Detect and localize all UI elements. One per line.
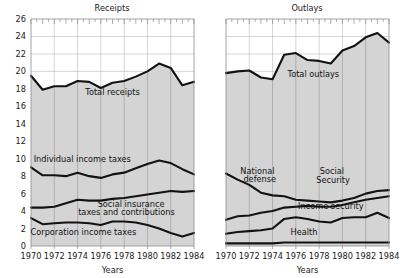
panel-title-receipts: Receipts xyxy=(95,3,130,13)
x-tick-label: 1970 xyxy=(216,251,237,261)
series-line-health xyxy=(226,243,389,244)
y-tick-label: 6 xyxy=(21,189,26,199)
annotation-social-insurance-line2: taxes and contributions xyxy=(78,207,175,217)
annotation-social-security-line2: Security xyxy=(316,175,350,185)
y-tick-label: 14 xyxy=(16,119,26,129)
x-tick-label: 1980 xyxy=(332,251,353,261)
y-tick-label: 24 xyxy=(16,31,26,41)
panel-title-outlays: Outlays xyxy=(291,3,322,13)
annotation-health: Health xyxy=(291,227,318,237)
dual-area-chart: Receipts02468101214161820222426197019721… xyxy=(0,0,411,278)
y-tick-label: 2 xyxy=(21,224,26,234)
y-tick-label: 16 xyxy=(16,101,26,111)
annotation-individual-income-taxes: Individual income taxes xyxy=(34,154,131,164)
y-tick-label: 10 xyxy=(16,154,26,164)
x-tick-label: 1984 xyxy=(184,251,205,261)
y-tick-label: 4 xyxy=(21,206,26,216)
annotation-income-security: Income security xyxy=(298,201,364,211)
x-tick-label: 1976 xyxy=(90,251,111,261)
y-tick-label: 26 xyxy=(16,14,26,24)
x-tick-label: 1970 xyxy=(21,251,42,261)
x-tick-label: 1980 xyxy=(137,251,158,261)
x-tick-label: 1976 xyxy=(285,251,306,261)
y-tick-label: 0 xyxy=(21,241,26,251)
x-tick-label: 1974 xyxy=(67,251,88,261)
annotation-corporation-income-taxes: Corporation income taxes xyxy=(31,227,137,237)
y-tick-label: 20 xyxy=(16,66,26,76)
x-tick-label: 1972 xyxy=(44,251,65,261)
x-tick-label: 1972 xyxy=(239,251,260,261)
y-tick-label: 22 xyxy=(16,49,26,59)
x-axis-title: Years xyxy=(101,265,124,275)
panel-outlays: Outlays19701972197419761978198019821984Y… xyxy=(216,3,400,275)
x-tick-label: 1984 xyxy=(379,251,400,261)
annotation-national-defense-line2: defense xyxy=(243,174,276,184)
annotation-total-receipts: Total receipts xyxy=(84,87,139,97)
x-tick-label: 1978 xyxy=(309,251,330,261)
annotation-total-outlays: Total outlays xyxy=(287,69,340,79)
x-tick-label: 1978 xyxy=(114,251,135,261)
area-fill-total-outlays xyxy=(226,33,389,246)
y-tick-label: 12 xyxy=(16,136,26,146)
x-tick-label: 1974 xyxy=(262,251,283,261)
x-axis-title: Years xyxy=(296,265,319,275)
y-tick-label: 18 xyxy=(16,84,26,94)
x-tick-label: 1982 xyxy=(355,251,376,261)
x-tick-label: 1982 xyxy=(160,251,181,261)
panel-receipts: Receipts02468101214161820222426197019721… xyxy=(16,3,205,275)
figure-container: Receipts02468101214161820222426197019721… xyxy=(0,0,411,278)
y-tick-label: 8 xyxy=(21,171,26,181)
